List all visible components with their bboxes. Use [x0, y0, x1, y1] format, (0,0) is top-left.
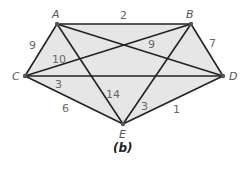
- edge-weight-a-c: 9: [29, 39, 36, 52]
- vertex-b-dot: [189, 22, 193, 26]
- edge-weight-b-d: 7: [209, 37, 216, 50]
- edge-weight-a-d: 9: [148, 38, 155, 51]
- edge-weight-b-e: 3: [141, 100, 148, 113]
- edge-weight-c-d: 3: [55, 78, 62, 91]
- vertex-label-e: E: [119, 128, 126, 141]
- edge-weight-a-e: 14: [106, 88, 120, 101]
- vertex-label-a: A: [51, 8, 60, 21]
- edge-weight-d-e: 1: [173, 103, 180, 116]
- vertex-label-b: B: [186, 8, 194, 21]
- vertex-e-dot: [121, 122, 125, 126]
- weighted-graph-diagram: A B C D E 2 9 10 9 7 3 6 14 3 1 (b): [0, 0, 246, 169]
- figure-caption: (b): [113, 141, 133, 155]
- vertex-label-d: D: [229, 70, 237, 83]
- vertex-c-dot: [23, 74, 27, 78]
- vertex-d-dot: [221, 74, 225, 78]
- edge-weight-c-e: 6: [62, 102, 69, 115]
- vertex-label-c: C: [12, 70, 20, 83]
- edge-weight-c-b: 10: [52, 53, 66, 66]
- shaded-region: [25, 24, 223, 124]
- vertex-a-dot: [55, 22, 59, 26]
- edge-weight-a-b: 2: [120, 9, 127, 22]
